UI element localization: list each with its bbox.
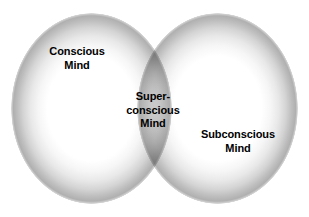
label-conscious-line-2: Mind (49, 58, 104, 72)
venn-diagram: Conscious Mind Super- conscious Mind Sub… (0, 0, 309, 217)
label-superconscious-line-3: Mind (126, 117, 180, 131)
label-subconscious-line-1: Subconscious (201, 128, 275, 142)
label-subconscious-mind: Subconscious Mind (201, 128, 275, 155)
label-subconscious-line-2: Mind (201, 141, 275, 155)
label-conscious-line-1: Conscious (49, 45, 104, 59)
label-superconscious-line-2: conscious (126, 103, 180, 117)
label-superconscious-line-1: Super- (126, 90, 180, 104)
label-superconscious-mind: Super- conscious Mind (126, 90, 180, 131)
label-conscious-mind: Conscious Mind (49, 45, 104, 72)
